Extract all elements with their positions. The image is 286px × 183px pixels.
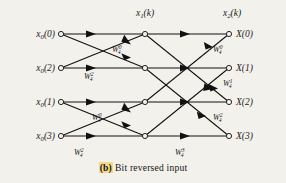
caption-part-label: (b) (99, 162, 113, 173)
twiddle-label-6: W24 (213, 112, 223, 124)
twiddle-label-3: W24 (74, 147, 84, 159)
input-label-3: x0(3) (35, 131, 55, 142)
arrowhead-s1-h2 (86, 98, 96, 105)
stage2-column-label: x2(k) (222, 8, 241, 19)
output-label-2: X(2) (235, 97, 253, 108)
arrowhead-s2-h1 (180, 64, 190, 71)
node-output-2 (226, 99, 231, 104)
arrowhead-s2-h2 (180, 98, 190, 105)
arrowhead-s1-h0 (86, 30, 96, 37)
twiddle-label-2: W04 (92, 112, 102, 124)
figure-caption: (b)Bit reversed input (0, 162, 286, 173)
arrowhead-s2-h0 (180, 30, 190, 37)
twiddle-label-0: W04 (112, 44, 122, 56)
node-output-3 (226, 133, 231, 138)
stage1-column-label: x1(k) (135, 8, 154, 19)
node-stage1-0 (142, 31, 147, 36)
node-input-1 (58, 65, 63, 70)
twiddle-label-7: W34 (175, 147, 185, 159)
node-input-3 (58, 133, 63, 138)
twiddle-label-1: W24 (84, 71, 94, 83)
twiddle-label-5: W14 (223, 78, 233, 90)
input-label-0: x0(0) (35, 29, 55, 40)
node-input-0 (58, 31, 63, 36)
node-stage1-1 (142, 65, 147, 70)
arrowhead-s2-d1 (197, 111, 206, 119)
output-label-3: X(3) (235, 131, 253, 142)
node-stage1-3 (142, 133, 147, 138)
fft-signal-flow-graph: x1(k) x2(k) x0(0) x0(2) x0(1) x0(3) X(0)… (0, 0, 286, 183)
output-label-1: X(1) (235, 63, 253, 74)
node-output-0 (226, 31, 231, 36)
input-label-2: x0(1) (35, 97, 55, 108)
node-stage1-2 (142, 99, 147, 104)
fft-butterfly-figure: x1(k) x2(k) x0(0) x0(2) x0(1) x0(3) X(0)… (0, 0, 286, 183)
output-label-0: X(0) (235, 29, 253, 40)
caption-text: Bit reversed input (113, 162, 187, 173)
twiddle-label-4: W04 (213, 44, 223, 56)
arrowhead-s1-h3 (86, 132, 96, 139)
arrowhead-s2-h3 (180, 132, 190, 139)
input-label-1: x0(2) (35, 63, 55, 74)
node-output-1 (226, 65, 231, 70)
node-input-2 (58, 99, 63, 104)
